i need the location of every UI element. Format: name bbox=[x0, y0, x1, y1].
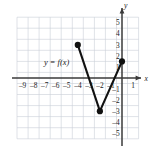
ytick-label: 4 bbox=[116, 29, 120, 38]
xtick-label: –6 bbox=[51, 81, 60, 90]
ytick-label: –3 bbox=[111, 107, 120, 116]
axis-label-y: y bbox=[123, 1, 128, 10]
axis-label-x: x bbox=[144, 74, 149, 83]
graph-figure: x y –9 –8 –7 –6 –5 –4 –3 –2 –1 1 5 4 3 2… bbox=[0, 0, 154, 152]
xtick-label: 1 bbox=[131, 81, 135, 90]
ytick-label: 2 bbox=[116, 52, 120, 61]
ytick-label: –1 bbox=[111, 85, 120, 94]
xtick-label: –8 bbox=[29, 81, 38, 90]
plot-background bbox=[0, 0, 154, 152]
ytick-label: –4 bbox=[111, 118, 120, 127]
function-label: y = f(x) bbox=[43, 58, 69, 67]
xtick-label: –2 bbox=[95, 81, 104, 90]
ytick-label: 5 bbox=[116, 18, 120, 27]
data-point-marker bbox=[119, 58, 125, 64]
xtick-label: –4 bbox=[73, 81, 82, 90]
ytick-label: –2 bbox=[111, 96, 120, 105]
coordinate-plane-svg: x y –9 –8 –7 –6 –5 –4 –3 –2 –1 1 5 4 3 2… bbox=[0, 0, 154, 152]
ytick-label: 3 bbox=[116, 41, 120, 50]
xtick-label: –9 bbox=[18, 81, 27, 90]
ytick-label: –5 bbox=[111, 129, 120, 138]
xtick-label: –7 bbox=[40, 81, 49, 90]
xtick-label: –5 bbox=[62, 81, 71, 90]
data-point-marker bbox=[75, 42, 81, 48]
data-point-marker bbox=[97, 108, 103, 114]
